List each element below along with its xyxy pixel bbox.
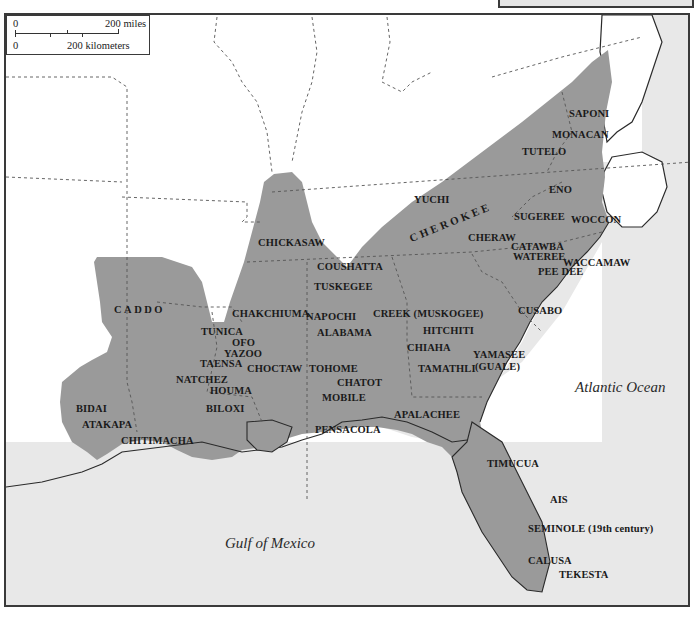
tribe-label-guale: (GUALE) xyxy=(475,362,520,373)
tribe-label-yamasee: YAMASEE xyxy=(473,350,525,361)
tribe-label-pee-dee: PEE DEE xyxy=(538,267,583,278)
tribe-label-tuskegee: TUSKEGEE xyxy=(314,282,373,293)
scale-bar: 0 200 miles 0 200 kilometers xyxy=(6,15,150,55)
tribe-label-ais: AIS xyxy=(550,495,568,506)
tribe-label-chatot: CHATOT xyxy=(337,378,382,389)
tribe-label-cheraw: CHERAW xyxy=(468,233,516,244)
tribe-label-napochi: NAPOCHI xyxy=(306,312,356,323)
tribe-label-woccon: WOCCON xyxy=(571,215,621,226)
tribe-label-choctaw: CHOCTAW xyxy=(247,364,302,375)
inset-map-edge xyxy=(498,0,694,8)
tribe-label-ofo: OFO xyxy=(232,338,255,349)
tribe-label-timucua: TIMUCUA xyxy=(487,459,539,470)
tribe-label-alabama: ALABAMA xyxy=(317,328,372,339)
map-frame: 0 200 miles 0 200 kilometers Atlantic Oc… xyxy=(4,13,690,607)
tribe-label-saponi: SAPONI xyxy=(569,109,609,120)
tribe-label-chitimacha: CHITIMACHA xyxy=(121,436,194,447)
scale-miles-label: 200 miles xyxy=(105,18,146,29)
tribe-label-hitchiti: HITCHITI xyxy=(423,326,474,337)
tribe-label-biloxi: BILOXI xyxy=(206,404,245,415)
tribe-label-pensacola: PENSACOLA xyxy=(315,425,381,436)
tribe-label-mobile: MOBILE xyxy=(322,393,366,404)
tribe-label-seminole: SEMINOLE (19th century) xyxy=(528,524,653,535)
tribe-label-monacan: MONACAN xyxy=(552,130,609,141)
tribe-label-caddo: CADDO xyxy=(114,305,165,316)
tribe-label-chickasaw: CHICKASAW xyxy=(258,238,325,249)
tribe-label-apalachee: APALACHEE xyxy=(394,410,460,421)
tribe-label-wateree: WATEREE xyxy=(513,252,565,263)
tribe-label-cusabo: CUSABO xyxy=(518,306,562,317)
tribe-label-houma: HOUMA xyxy=(210,386,252,397)
tribe-label-atakapa: ATAKAPA xyxy=(82,420,132,431)
tribe-label-tamathli: TAMATHLI xyxy=(418,364,476,375)
atlantic-ocean-label: Atlantic Ocean xyxy=(575,379,665,396)
tribe-label-creek: CREEK (MUSKOGEE) xyxy=(373,309,483,320)
tribe-label-tekesta: TEKESTA xyxy=(559,570,609,581)
tribe-label-yuchi: YUCHI xyxy=(414,195,450,206)
tribe-label-chakchiuma: CHAKCHIUMA xyxy=(232,309,309,320)
tribe-label-coushatta: COUSHATTA xyxy=(317,262,383,273)
tribe-label-natchez: NATCHEZ xyxy=(176,375,228,386)
tribe-label-tunica: TUNICA xyxy=(201,327,243,338)
tribe-label-taensa: TAENSA xyxy=(200,359,242,370)
tribe-label-calusa: CALUSA xyxy=(528,556,572,567)
scale-km-label: 200 kilometers xyxy=(67,40,130,51)
tribe-label-chiaha: CHIAHA xyxy=(407,343,451,354)
scale-km-zero: 0 xyxy=(13,40,18,51)
tribe-label-tohome: TOHOME xyxy=(309,364,358,375)
tribe-label-tutelo: TUTELO xyxy=(522,147,566,158)
tribe-label-sugeree: SUGEREE xyxy=(514,212,565,223)
scale-miles-zero: 0 xyxy=(13,18,18,29)
tribe-label-bidai: BIDAI xyxy=(76,404,107,415)
tribe-label-eno: ENO xyxy=(549,185,572,196)
gulf-of-mexico-label: Gulf of Mexico xyxy=(225,535,315,552)
